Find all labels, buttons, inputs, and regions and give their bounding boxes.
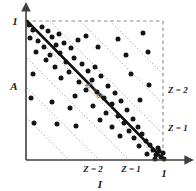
data-point: [74, 124, 79, 129]
data-point: [50, 35, 55, 40]
data-point: [53, 65, 58, 70]
data-point: [62, 41, 67, 46]
right-label-z1: Z = 1: [167, 123, 188, 133]
data-point: [119, 99, 124, 104]
data-point: [34, 50, 39, 55]
data-point: [32, 121, 37, 126]
data-point: [93, 65, 98, 70]
data-point: [146, 50, 151, 55]
data-point: [116, 114, 121, 119]
data-point: [42, 45, 47, 50]
data-point: [102, 96, 107, 101]
data-point: [80, 62, 85, 67]
data-point: [145, 152, 150, 157]
data-point: [110, 125, 115, 130]
data-point: [131, 117, 136, 122]
data-point: [140, 132, 145, 137]
data-point: [113, 91, 118, 96]
x-axis-label: I: [97, 178, 103, 190]
bottom-label-z2: Z = 2: [82, 164, 103, 174]
data-point: [27, 23, 32, 28]
data-point: [122, 121, 127, 126]
data-point: [129, 72, 134, 77]
scatter-plot-figure: 1 1 A I Z = 2 Z = 1 Z = 2 Z = 1 Z = 0: [0, 0, 196, 191]
data-point: [68, 106, 73, 111]
data-point: [31, 72, 36, 77]
data-point: [86, 69, 91, 74]
data-point: [132, 136, 137, 141]
data-point: [55, 122, 60, 127]
data-point: [64, 60, 69, 65]
data-point: [36, 39, 41, 44]
data-point: [28, 36, 33, 41]
data-point: [59, 76, 64, 81]
data-point: [147, 83, 152, 88]
data-point: [54, 43, 59, 48]
data-point: [57, 32, 62, 37]
data-point: [46, 29, 51, 34]
data-point: [69, 46, 74, 51]
data-point: [125, 108, 130, 113]
y-axis-tick-one: 1: [12, 15, 18, 27]
x-axis-tick-one: 1: [161, 167, 167, 179]
data-point: [144, 139, 149, 144]
data-point: [98, 118, 103, 123]
data-point: [156, 146, 161, 151]
data-point: [31, 28, 36, 33]
data-point: [161, 151, 166, 156]
data-point: [106, 84, 111, 89]
data-point: [127, 129, 132, 134]
right-label-z2: Z = 2: [167, 85, 188, 95]
data-point: [91, 104, 96, 109]
data-point: [136, 125, 141, 130]
y-axis-label: A: [9, 80, 17, 92]
data-point: [44, 58, 49, 63]
data-point: [84, 34, 89, 39]
data-point: [58, 51, 63, 56]
data-point: [124, 53, 129, 58]
bottom-label-z1: Z = 1: [120, 164, 141, 174]
plot-svg: 1 1 A I Z = 2 Z = 1 Z = 2 Z = 1 Z = 0: [0, 0, 196, 191]
data-point: [141, 31, 146, 36]
data-point: [50, 100, 55, 105]
data-point: [76, 38, 81, 43]
data-point: [48, 53, 53, 58]
data-point: [151, 148, 156, 153]
data-point: [72, 56, 77, 61]
data-point: [104, 111, 109, 116]
data-point: [99, 74, 104, 79]
data-point: [148, 143, 153, 148]
data-point: [77, 80, 82, 85]
data-point: [137, 144, 142, 149]
data-point: [96, 45, 101, 50]
data-point: [67, 70, 72, 75]
data-point: [138, 98, 143, 103]
data-point: [40, 25, 45, 30]
data-point: [73, 94, 78, 99]
data-point: [116, 37, 121, 42]
data-point: [110, 102, 115, 107]
data-point: [29, 96, 34, 101]
data-point: [118, 134, 123, 139]
